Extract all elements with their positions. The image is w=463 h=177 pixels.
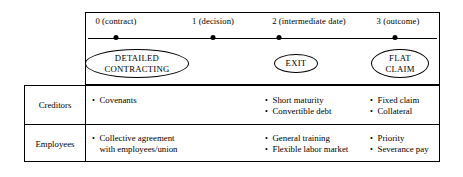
creditors-group-1-list: Short maturity Convertible debt [265,95,331,117]
stage-label-line1: DETAILED [104,53,169,63]
stage-ellipse-detailed-contracting: DETAILED CONTRACTING [85,49,189,78]
list-item: General training [265,133,348,144]
employees-group-0-list: Collective agreement with employees/unio… [92,133,177,155]
list-item-text-continued: with employees/union [100,144,178,155]
timeline-tick-label-2: 2 (intermediate date) [272,16,346,26]
table-row-label-creditors: Creditors [27,100,83,110]
table-row-divider [24,124,440,125]
list-item: Flexible labor market [265,144,348,155]
stage-label-line2: CONTRACTING [104,64,169,74]
list-item: Covenants [92,95,137,106]
table-column-divider [85,85,86,162]
list-item-text: Collective agreement [100,133,175,143]
stage-ellipse-exit: EXIT [274,54,318,73]
creditors-group-0-list: Covenants [92,95,137,106]
stage-label-line1: FLAT [385,53,414,63]
employees-group-1-list: General training Flexible labor market [265,133,348,155]
list-item-text: Collateral [378,106,413,116]
timeline-tick-label-0: 0 (contract) [95,16,136,26]
table-row-label-employees: Employees [27,139,83,149]
list-item: Severance pay [370,144,429,155]
timeline-dot-0 [114,35,119,40]
list-item-text: Severance pay [378,144,429,154]
timeline-tick-label-3: 3 (outcome) [377,16,420,26]
list-item-text: Covenants [100,95,137,105]
stage-ellipse-flat-claim: FLAT CLAIM [371,49,429,78]
timeline-dot-1 [211,35,216,40]
timeline-tick-label-1: 1 (decision) [192,16,234,26]
list-item: Short maturity [265,95,331,106]
list-item-text: Short maturity [273,95,324,105]
timeline-dot-3 [393,35,398,40]
timeline-axis-line [88,38,437,39]
list-item-text: Flexible labor market [273,144,349,154]
employees-group-2-list: Priority Severance pay [370,133,429,155]
contracting-timeline-figure: 0 (contract) 1 (decision) 2 (intermediat… [0,0,463,177]
list-item: Priority [370,133,429,144]
stage-label-line2: CLAIM [385,64,414,74]
list-item: Convertible debt [265,106,331,117]
stage-label-line1: EXIT [286,58,307,68]
list-item: Collateral [370,106,419,117]
list-item-text: Convertible debt [273,106,332,116]
list-item-text: Priority [378,133,405,143]
creditors-group-2-list: Fixed claim Collateral [370,95,419,117]
timeline-dot-2 [277,35,282,40]
list-item-text: Fixed claim [378,95,420,105]
list-item: Fixed claim [370,95,419,106]
list-item: Collective agreement with employees/unio… [92,133,177,155]
list-item-text: General training [273,133,330,143]
